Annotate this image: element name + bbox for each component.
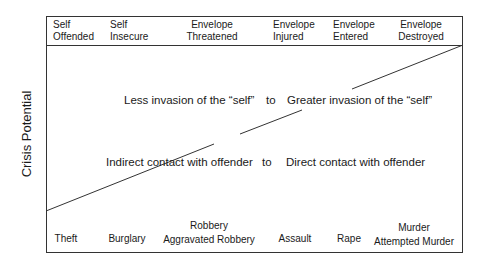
- y-axis-label: Crisis Potential: [19, 91, 34, 178]
- crime-theft: Theft: [55, 232, 78, 246]
- continuum-self-right: Greater invasion of the “self”: [287, 94, 432, 106]
- header-envelope-threatened: Envelope Threatened: [186, 19, 237, 43]
- crime-burglary: Burglary: [108, 232, 145, 246]
- header-envelope-entered: Envelope Entered: [333, 19, 375, 43]
- continuum-self-to: to: [266, 94, 276, 106]
- crime-robbery: Robbery Aggravated Robbery: [163, 219, 255, 247]
- header-self-insecure: Self Insecure: [110, 19, 148, 43]
- continuum-contact-left: Indirect contact with offender: [106, 156, 253, 168]
- crime-assault: Assault: [279, 232, 312, 246]
- continuum-contact-to: to: [262, 156, 272, 168]
- crime-rape: Rape: [337, 232, 361, 246]
- crime-murder: Murder Attempted Murder: [374, 221, 454, 249]
- header-self-offended: Self Offended: [53, 19, 94, 43]
- header-envelope-destroyed: Envelope Destroyed: [398, 19, 444, 43]
- continuum-self-left: Less invasion of the “self”: [124, 94, 254, 106]
- continuum-contact-right: Direct contact with offender: [286, 156, 425, 168]
- header-envelope-injured: Envelope Injured: [273, 19, 315, 43]
